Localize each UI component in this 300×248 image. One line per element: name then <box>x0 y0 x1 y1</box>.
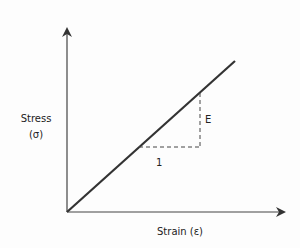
x-axis-label: Strain (ε) <box>157 226 203 238</box>
stress-strain-diagram: Stress (σ) Strain (ε) E 1 <box>0 0 300 248</box>
rise-label: E <box>205 114 211 126</box>
run-label: 1 <box>156 157 162 169</box>
y-axis-label-text: Stress <box>21 113 52 124</box>
elastic-line <box>67 61 235 212</box>
y-axis-label: Stress (σ) <box>14 113 58 141</box>
y-axis-symbol: (σ) <box>14 129 58 141</box>
